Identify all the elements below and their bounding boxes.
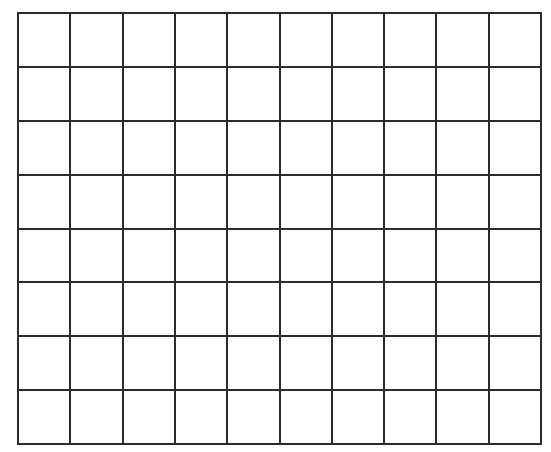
grid-horizontal-line — [17, 389, 542, 391]
grid-horizontal-line — [17, 12, 542, 14]
grid-horizontal-line — [17, 66, 542, 68]
grid-horizontal-line — [17, 335, 542, 337]
grid-horizontal-line — [17, 228, 542, 230]
grid-horizontal-line — [17, 281, 542, 283]
grid-horizontal-line — [17, 174, 542, 176]
grid-horizontal-line — [17, 120, 542, 122]
empty-grid — [18, 13, 541, 444]
grid-horizontal-line — [17, 443, 542, 445]
